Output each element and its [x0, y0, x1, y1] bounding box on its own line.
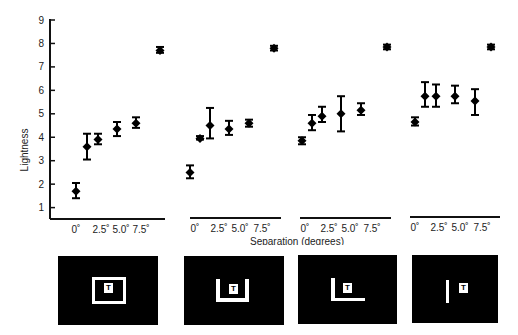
x-tick-label: 0˚ [72, 224, 81, 235]
stimulus-three-sided-frame: T [184, 256, 284, 325]
frame-left [92, 277, 95, 304]
data-point-diamond [337, 109, 346, 118]
target-patch: T [104, 283, 113, 293]
x-tick-label: 5.0˚ [112, 224, 129, 235]
x-tick-label: 2.5˚ [430, 222, 447, 233]
x-tick-label: 5.0˚ [451, 222, 468, 233]
frame-top [92, 277, 126, 280]
data-point-diamond [94, 135, 103, 144]
target-patch: T [343, 283, 352, 293]
x-tick-label: 0˚ [301, 223, 310, 234]
y-tick-label: 9 [38, 15, 44, 26]
data-point-diamond [357, 106, 366, 115]
x-tick-label: 2.5˚ [92, 224, 109, 235]
x-tick-label: 7.5˚ [363, 223, 380, 234]
data-point-diamond [186, 168, 195, 177]
y-tick-label: 4 [38, 132, 44, 143]
data-point-diamond [225, 125, 234, 134]
x-tick-label: 0˚ [191, 223, 200, 234]
data-point-diamond [132, 119, 141, 128]
x-tick-label: 7.5˚ [473, 222, 490, 233]
frame-bottom [216, 298, 249, 302]
data-point-diamond [72, 187, 81, 196]
y-tick-label: 5 [38, 108, 44, 119]
frame-bottom [92, 301, 126, 304]
x-tick-label: 5.0˚ [231, 223, 248, 234]
data-point-diamond [451, 92, 460, 101]
y-tick-label: 6 [38, 85, 44, 96]
lightness-chart: 123456789Lightness0˚2.5˚5.0˚7.5˚0˚2.5˚5.… [0, 0, 518, 245]
x-tick-label: 0˚ [411, 222, 420, 233]
data-point-diamond [421, 92, 430, 101]
frame-right [123, 277, 126, 304]
x-tick-label: 7.5˚ [132, 224, 149, 235]
y-tick-label: 7 [38, 61, 44, 72]
data-point-diamond [318, 112, 327, 121]
target-patch: T [459, 283, 468, 293]
y-tick-label: 1 [38, 202, 44, 213]
stimulus-one-sided-frame: T [412, 255, 498, 323]
y-tick-label: 2 [38, 179, 44, 190]
y-axis-label: Lightness [19, 129, 30, 172]
y-tick-label: 3 [38, 155, 44, 166]
x-tick-label: 2.5˚ [320, 223, 337, 234]
data-point-diamond [206, 121, 215, 130]
data-point-diamond [471, 96, 480, 105]
data-point-diamond [308, 119, 317, 128]
x-tick-label: 5.0˚ [341, 223, 358, 234]
data-point-diamond [432, 92, 441, 101]
frame-left [446, 280, 449, 303]
y-tick-label: 8 [38, 38, 44, 49]
stimulus-full-frame: T [58, 256, 158, 325]
x-tick-label: 2.5˚ [210, 223, 227, 234]
target-patch: T [229, 284, 238, 294]
frame-bottom [331, 298, 365, 301]
x-axis-label: Separation (degrees) [250, 236, 344, 245]
x-tick-label: 7.5˚ [253, 223, 270, 234]
data-point-diamond [83, 142, 92, 151]
data-point-diamond [113, 125, 122, 134]
stimulus-two-sided-frame: T [298, 255, 397, 324]
